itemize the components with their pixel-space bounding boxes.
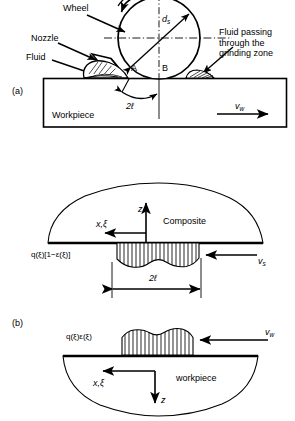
label-fluid-passing: Fluid passing through the grinding zone: [219, 27, 293, 59]
composite-body-outline: [48, 183, 263, 243]
diameter-subscript: s: [167, 18, 170, 25]
label-workpiece-x-axis: x,ξ: [93, 378, 104, 388]
label-workpiece-flux: q(ξ)ε(ξ): [66, 332, 92, 342]
label-point-b: B: [162, 63, 168, 73]
velocity-subscript-w-b: w: [270, 331, 275, 338]
label-workpiece-velocity-a: vw: [235, 101, 244, 114]
label-composite: Composite: [163, 216, 206, 226]
wheel-label-arrow: [87, 15, 125, 32]
velocity-subscript-a: w: [240, 105, 245, 112]
label-nozzle: Nozzle: [31, 33, 59, 43]
label-wheel: Wheel: [63, 3, 89, 13]
label-composite-flux: q(ξ)[1−ε(ξ)]: [31, 250, 70, 260]
label-workpiece-z-axis: z: [161, 395, 166, 405]
label-composite-x-axis: x,ξ: [96, 219, 107, 229]
label-wheel-diameter: ds: [162, 14, 170, 27]
label-fluid: Fluid: [26, 52, 46, 62]
label-workpiece-b: workpiece: [176, 373, 217, 383]
label-contact-length-a: 2ℓ: [126, 101, 134, 111]
label-point-a: A: [131, 63, 137, 73]
velocity-subscript-s: s: [263, 260, 266, 267]
label-workpiece-velocity-b: vw: [265, 327, 274, 340]
label-workpiece-a: Workpiece: [52, 110, 94, 120]
composite-flux-profile: [117, 243, 199, 267]
figure-vector-layer: [0, 0, 295, 421]
label-contact-length-b: 2ℓ: [149, 273, 157, 283]
label-composite-z-axis: z: [138, 204, 143, 214]
contact-length-arc-a: [122, 92, 157, 99]
contact-length-tick-a: [122, 79, 129, 92]
figure-canvas: (a) Wheel Nozzle Fluid Fluid passing thr…: [0, 0, 295, 421]
label-composite-velocity: vs: [258, 256, 266, 269]
nozzle-label-arrow: [58, 43, 96, 60]
panel-b-tag: (b): [12, 318, 23, 328]
panel-a-tag: (a): [12, 86, 23, 96]
